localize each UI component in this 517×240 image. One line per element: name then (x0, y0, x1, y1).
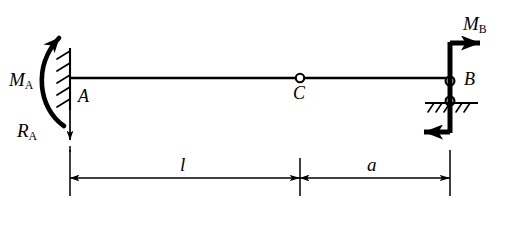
label-moment-a: MA (9, 70, 33, 91)
label-node-b: B (464, 70, 475, 88)
label-node-c: C (293, 84, 305, 102)
label-dimension-l: l (180, 155, 185, 174)
internal-hinge-c (296, 74, 304, 82)
label-moment-b: MB (463, 14, 487, 35)
fixed-support-a (57, 48, 70, 110)
diagram-vector-layer (0, 0, 517, 240)
label-dimension-a: a (367, 155, 377, 174)
label-reaction-a: RA (17, 121, 37, 142)
dimension-extension-lines (70, 150, 450, 196)
applied-moment-a-arc (42, 38, 64, 126)
label-node-a: A (78, 87, 89, 105)
beam-diagram-canvas: MA RA MB A B C l a (0, 0, 517, 240)
